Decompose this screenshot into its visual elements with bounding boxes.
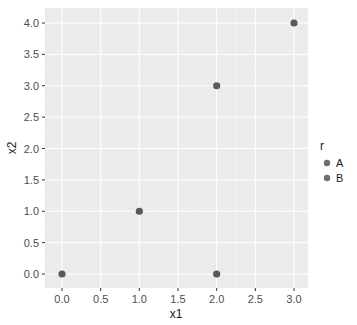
x-tick-label: 0.5 [93, 293, 108, 305]
data-point [58, 270, 65, 277]
x-axis-ticks: 0.00.51.01.52.02.53.0 [54, 288, 301, 305]
legend-title: r [320, 139, 324, 153]
data-point [290, 19, 297, 26]
x-axis-title: x1 [170, 307, 183, 321]
x-tick-label: 3.0 [286, 293, 301, 305]
x-tick-label: 1.5 [170, 293, 185, 305]
y-tick-label: 2.0 [24, 143, 39, 155]
data-point [213, 82, 220, 89]
x-tick-label: 1.0 [132, 293, 147, 305]
y-axis-ticks: 0.00.51.01.52.02.53.03.54.0 [24, 17, 45, 280]
y-tick-label: 4.0 [24, 17, 39, 29]
legend-dot-a [324, 160, 330, 166]
x-tick-label: 2.5 [248, 293, 263, 305]
legend: r A B [320, 139, 344, 184]
y-axis-title: x2 [5, 141, 19, 154]
scatter-chart: 0.00.51.01.52.02.53.0 0.00.51.01.52.02.5… [0, 0, 357, 325]
y-tick-label: 1.0 [24, 205, 39, 217]
legend-item-b: B [324, 172, 344, 184]
x-tick-label: 2.0 [209, 293, 224, 305]
y-tick-label: 3.0 [24, 80, 39, 92]
y-tick-label: 0.5 [24, 237, 39, 249]
y-tick-label: 3.5 [24, 48, 39, 60]
legend-label-a: A [336, 157, 344, 169]
legend-label-b: B [336, 172, 343, 184]
y-tick-label: 1.5 [24, 174, 39, 186]
y-tick-label: 2.5 [24, 111, 39, 123]
data-point [136, 208, 143, 215]
data-point [213, 270, 220, 277]
x-tick-label: 0.0 [54, 293, 69, 305]
legend-dot-b [324, 175, 330, 181]
legend-item-a: A [324, 157, 344, 169]
y-tick-label: 0.0 [24, 268, 39, 280]
